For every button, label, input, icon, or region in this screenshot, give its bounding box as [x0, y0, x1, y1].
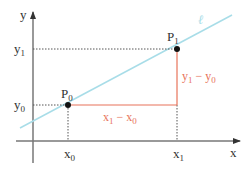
x1-tick-label: x1	[173, 146, 184, 163]
delta-y-label: y1 − y0	[182, 69, 216, 85]
slope-diagram: y x ℓ y1 y0 x0 x1 P0 P1 x1 − x0 y1 − y0	[0, 0, 249, 169]
p1-label: P1	[167, 29, 179, 46]
y0-tick-label: y0	[14, 97, 26, 114]
p0-label: P0	[61, 86, 73, 103]
x0-tick-label: x0	[64, 146, 76, 163]
delta-x-label: x1 − x0	[103, 110, 137, 126]
point-p1	[174, 46, 180, 52]
x-axis-label: x	[230, 145, 237, 160]
line-l-label: ℓ	[198, 12, 204, 27]
y1-tick-label: y1	[14, 41, 25, 58]
y-axis-label: y	[20, 7, 27, 22]
